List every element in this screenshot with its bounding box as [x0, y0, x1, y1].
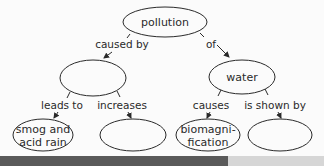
node-label-line1: smog and: [16, 123, 70, 136]
link-label-is-shown-by: is shown by: [244, 99, 306, 111]
link-of: of: [200, 33, 229, 57]
node-empty-increase: [100, 119, 166, 151]
link-caused-by: caused by: [95, 34, 149, 58]
link-label-leads-to: leads to: [41, 99, 83, 111]
node-pollution: pollution: [123, 7, 207, 37]
concept-map: pollution caused by of water leads to in…: [0, 0, 324, 166]
node-empty-cause: [60, 60, 126, 96]
node-empty-evidence: [248, 119, 312, 151]
node-biomagnification: biomagni- fication: [176, 119, 240, 151]
bottom-bar-light: [228, 156, 324, 166]
link-label-causes: causes: [193, 99, 229, 111]
link-leads-to: leads to: [41, 92, 83, 118]
link-causes: causes: [193, 90, 229, 118]
link-label-caused-by: caused by: [95, 38, 149, 50]
bottom-bar-dark: [0, 156, 228, 166]
link-label-increases: increases: [97, 99, 147, 111]
node-water: water: [209, 60, 275, 94]
node-label-line1: biomagni-: [180, 123, 235, 136]
node-label-line2: acid rain: [19, 136, 67, 149]
node-label-water: water: [226, 71, 258, 84]
node-label-pollution: pollution: [141, 16, 189, 29]
node-label-line2: fication: [188, 136, 229, 149]
node-smog-and-acid-rain: smog and acid rain: [13, 119, 73, 151]
link-label-of: of: [206, 38, 216, 50]
